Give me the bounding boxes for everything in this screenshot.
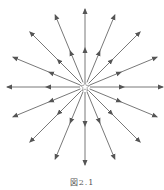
field-line [113, 32, 141, 60]
field-line [57, 91, 81, 115]
field-line [90, 72, 121, 85]
field-line [100, 123, 115, 159]
field-line [49, 72, 80, 85]
figure-caption: 図2.1 [0, 176, 164, 187]
field-line [87, 92, 100, 123]
field-line [49, 89, 80, 102]
field-lines-diagram [0, 0, 164, 190]
field-line [89, 91, 113, 115]
field-line [55, 123, 70, 159]
field-line [13, 102, 49, 117]
field-line [113, 115, 141, 143]
field-line [121, 57, 157, 72]
field-line [89, 59, 113, 83]
field-line [55, 15, 70, 51]
field-line [121, 102, 157, 117]
field-line [87, 51, 100, 82]
field-line [100, 15, 115, 51]
field-line [57, 59, 81, 83]
point-charge-star-icon [80, 82, 90, 91]
field-line [30, 32, 58, 60]
field-line [90, 89, 121, 102]
field-line [70, 92, 83, 123]
field-line [13, 57, 49, 72]
field-line [30, 115, 58, 143]
field-line [70, 51, 83, 82]
